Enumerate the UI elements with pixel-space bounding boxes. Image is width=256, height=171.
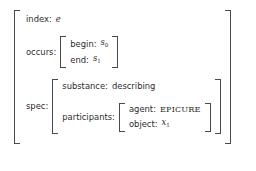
occurs-bracket-left [60,36,66,68]
attr-begin: begin: [70,39,100,50]
value-substance: describing [112,81,155,92]
row-participants: participants: agent: EPICURE obj [62,103,210,132]
participants-bracket-right [205,103,211,132]
row-substance: substance: describing [62,81,210,92]
spec-bracket-left [52,79,58,134]
value-begin-subscript: 0 [105,42,109,48]
spec-avm-body: substance: describing participants: agen… [62,79,210,134]
outer-bracket-right [225,10,231,144]
row-begin: begin: s0 [70,37,108,51]
attr-occurs: occurs: [26,47,60,58]
row-index: index: e [26,14,221,25]
attr-end: end: [70,55,93,66]
outer-bottom-spacer [26,134,98,140]
participants-avm: agent: EPICURE object: x1 [119,103,211,132]
row-end: end: s1 [70,53,108,67]
value-end: s1 [93,53,101,67]
spec-bracket-right [215,79,221,134]
value-agent: EPICURE [160,104,201,115]
occurs-bracket-right [112,36,118,68]
attr-object: object: [129,119,162,130]
value-end-subscript: 1 [97,58,101,64]
spec-avm: substance: describing participants: agen… [52,79,220,134]
row-agent: agent: EPICURE [129,104,201,115]
attr-spec: spec: [26,101,52,112]
row-spec: spec: substance: describing participants… [26,79,221,134]
attr-participants: participants: [62,112,119,123]
feature-structure-figure: index: e occurs: begin: s0 end: s1 [0,0,256,171]
outer-avm-body: index: e occurs: begin: s0 end: s1 [24,10,221,144]
value-object: x1 [162,117,170,131]
participants-bracket-left [119,103,125,132]
attr-substance: substance: [62,81,112,92]
occurs-avm-body: begin: s0 end: s1 [70,36,108,68]
outer-bracket-left [14,10,20,144]
row-object: object: x1 [129,117,201,131]
row-occurs: occurs: begin: s0 end: s1 [26,36,221,68]
value-object-subscript: 1 [166,122,170,128]
outer-avm: index: e occurs: begin: s0 end: s1 [14,10,231,144]
value-index: e [56,14,61,25]
participants-avm-body: agent: EPICURE object: x1 [129,103,201,132]
value-begin: s0 [101,37,109,51]
attr-index: index: [26,14,56,25]
attr-agent: agent: [129,104,160,115]
occurs-avm: begin: s0 end: s1 [60,36,118,68]
